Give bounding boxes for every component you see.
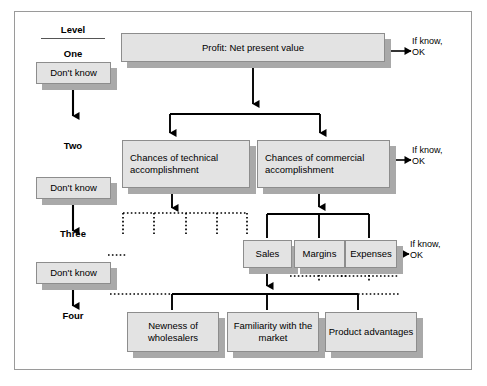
node-product-advantages[interactable]: Product advantages (325, 312, 417, 352)
if-know-line-2: OK (412, 156, 443, 167)
if-know-line-2: OK (410, 250, 441, 261)
node-technical-label: Chances of technical accomplishment (130, 152, 249, 176)
dont-know-box-one[interactable]: Don't know (36, 62, 111, 84)
node-expenses-label: Expenses (346, 248, 396, 260)
dont-know-box-two[interactable]: Don't know (36, 177, 111, 199)
node-commercial-label: Chances of commercial accomplishment (265, 152, 389, 176)
node-newness[interactable]: Newness of wholesalers (127, 312, 219, 352)
dont-know-label: Don't know (37, 267, 110, 279)
if-know-annotation-three: If know, OK (410, 239, 441, 261)
diagram-canvas: Level One Don't know Two Don't know Thre… (0, 0, 487, 386)
level-label-three: Three (45, 228, 101, 239)
node-familiarity[interactable]: Familiarity with the market (227, 312, 319, 352)
node-familiarity-label: Familiarity with the market (228, 320, 318, 344)
node-margins[interactable]: Margins (294, 240, 345, 268)
level-label-four: Four (45, 310, 101, 321)
dont-know-box-three[interactable]: Don't know (36, 262, 111, 284)
node-product-advantages-label: Product advantages (326, 326, 416, 338)
dont-know-label: Don't know (37, 67, 110, 79)
if-know-line-1: If know, (412, 36, 443, 47)
dont-know-label: Don't know (37, 182, 110, 194)
if-know-line-2: OK (412, 47, 443, 58)
node-profit-label: Profit: Net present value (122, 42, 384, 54)
if-know-annotation-two: If know, OK (412, 145, 443, 167)
if-know-annotation-one: If know, OK (412, 36, 443, 58)
node-commercial[interactable]: Chances of commercial accomplishment (257, 140, 390, 188)
level-label-two: Two (45, 140, 101, 151)
level-column-rule (41, 38, 105, 39)
node-sales-label: Sales (244, 248, 291, 260)
level-label-one: One (45, 48, 101, 59)
if-know-line-1: If know, (412, 145, 443, 156)
node-margins-label: Margins (295, 248, 344, 260)
node-sales[interactable]: Sales (243, 240, 292, 268)
level-column-header: Level (45, 24, 101, 35)
node-expenses[interactable]: Expenses (345, 240, 397, 268)
node-newness-label: Newness of wholesalers (128, 320, 218, 344)
node-technical[interactable]: Chances of technical accomplishment (122, 140, 250, 188)
node-profit[interactable]: Profit: Net present value (121, 33, 385, 62)
if-know-line-1: If know, (410, 239, 441, 250)
